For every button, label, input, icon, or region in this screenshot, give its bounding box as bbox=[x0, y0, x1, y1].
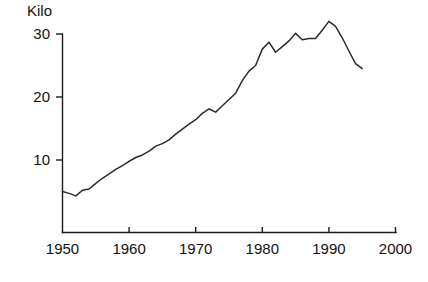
x-tick-label: 2000 bbox=[379, 240, 412, 257]
y-axis-unit-label: Kilo bbox=[27, 2, 52, 19]
x-axis-tick-labels: 195019601970198019902000 bbox=[46, 240, 412, 257]
x-tick-label: 1980 bbox=[246, 240, 279, 257]
y-tick-label: 10 bbox=[33, 151, 50, 168]
y-tick-label: 20 bbox=[33, 88, 50, 105]
x-tick-label: 1990 bbox=[312, 240, 345, 257]
y-axis-tick-labels: 102030 bbox=[33, 25, 50, 168]
y-tick-label: 30 bbox=[33, 25, 50, 42]
data-series-line bbox=[63, 21, 363, 196]
x-tick-label: 1950 bbox=[46, 240, 79, 257]
x-axis-ticks bbox=[129, 227, 395, 233]
x-tick-label: 1960 bbox=[112, 240, 145, 257]
y-axis-ticks bbox=[56, 34, 63, 160]
chart-figure: Kilo 102030 195019601970198019902000 bbox=[0, 0, 428, 282]
x-tick-label: 1970 bbox=[179, 240, 212, 257]
line-chart-svg: Kilo 102030 195019601970198019902000 bbox=[0, 0, 428, 282]
